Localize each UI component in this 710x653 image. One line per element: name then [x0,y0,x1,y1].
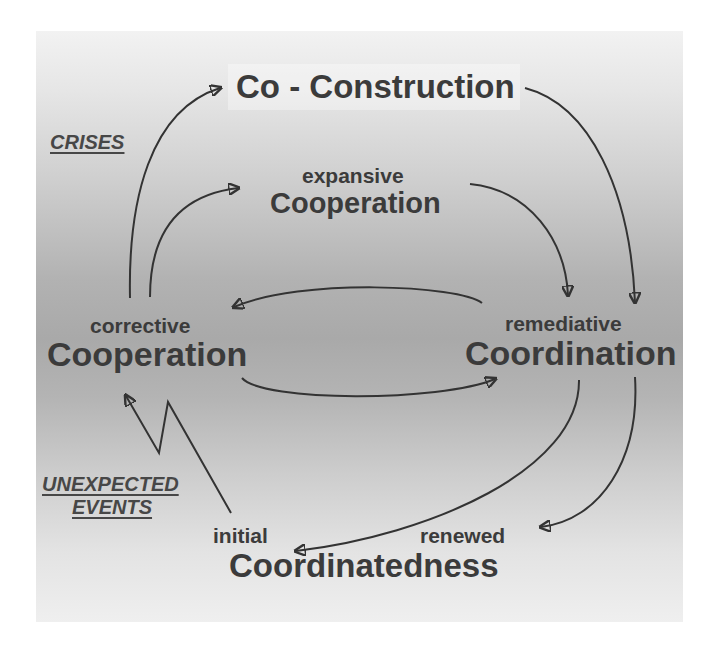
label-unexpected: UNEXPECTED [42,474,179,494]
node-coordinatedness: Coordinatedness [229,549,499,582]
node-remediative-coordination: Coordination [465,336,677,370]
node-expansive-cooperation: Cooperation [270,189,441,218]
node-co-construction: Co - Construction [236,70,515,103]
node-renewed-qualifier: renewed [420,525,505,546]
node-corrective-cooperation: Cooperation [47,337,247,371]
label-crises: CRISES [50,132,124,152]
node-initial-qualifier: initial [213,525,268,546]
node-remediative-qualifier: remediative [505,313,622,334]
label-events: EVENTS [72,497,152,517]
node-corrective-qualifier: corrective [90,315,190,336]
node-expansive-qualifier: expansive [302,165,404,186]
